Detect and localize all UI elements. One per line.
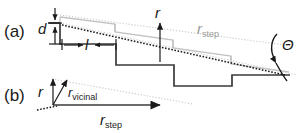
panel-b-label-rstep: rstep: [100, 111, 122, 130]
panel-a-label-rstep-sub: step: [202, 29, 219, 39]
panel-a-gray-envelope-upper: [60, 15, 292, 46]
panel-b-label-rvicinal-sub: vicinal: [72, 92, 97, 102]
panel-b-group: r rvicinal rstep (b): [4, 79, 193, 130]
panel-a-label-rstep: rstep: [197, 20, 219, 39]
panel-b-baseline-dotted: [37, 106, 57, 110]
panel-b-rvicinal-arrow: [53, 80, 67, 105]
panel-b-label-rstep-sub: step: [105, 120, 122, 130]
panel-b-label-rvicinal: rvicinal: [68, 85, 97, 102]
panel-a-label: (a): [4, 22, 25, 41]
panel-b-label-r: r: [38, 83, 44, 100]
schematic-svg: d l r rstep Θ (a): [0, 0, 305, 133]
panel-a-label-theta: Θ: [282, 36, 294, 53]
panel-a-group: d l r rstep Θ (a): [4, 4, 297, 86]
figure-root: d l r rstep Θ (a): [0, 0, 305, 133]
panel-a-label-d: d: [38, 20, 47, 37]
panel-b-label: (b): [4, 86, 25, 105]
panel-a-label-r: r: [155, 4, 161, 21]
